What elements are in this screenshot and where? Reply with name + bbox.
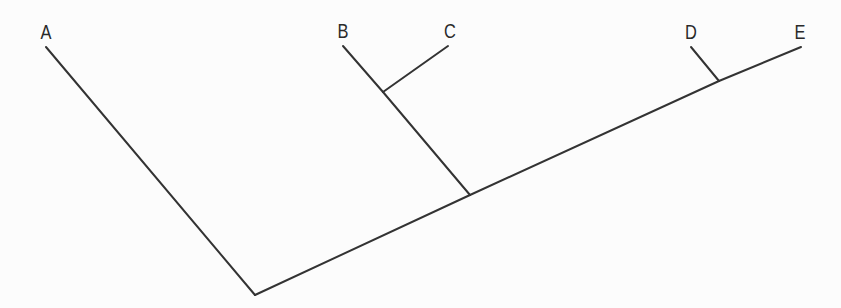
branch-root-a xyxy=(46,47,255,295)
taxon-label-b: B xyxy=(338,21,349,41)
taxon-label-a: A xyxy=(41,22,52,42)
branch-de-e xyxy=(719,47,801,81)
cladogram-diagram: A B C D E xyxy=(0,0,841,308)
branch-bc-b xyxy=(343,46,383,92)
branch-bcde-de xyxy=(470,81,719,195)
branch-bc-c xyxy=(383,46,448,92)
branch-de-d xyxy=(691,47,719,81)
taxon-label-d: D xyxy=(685,22,697,42)
tree-branches xyxy=(0,0,841,308)
taxon-label-e: E xyxy=(795,22,806,42)
branch-root-bcde xyxy=(255,195,470,295)
taxon-label-c: C xyxy=(444,21,456,41)
branch-bcde-bc xyxy=(383,92,470,195)
